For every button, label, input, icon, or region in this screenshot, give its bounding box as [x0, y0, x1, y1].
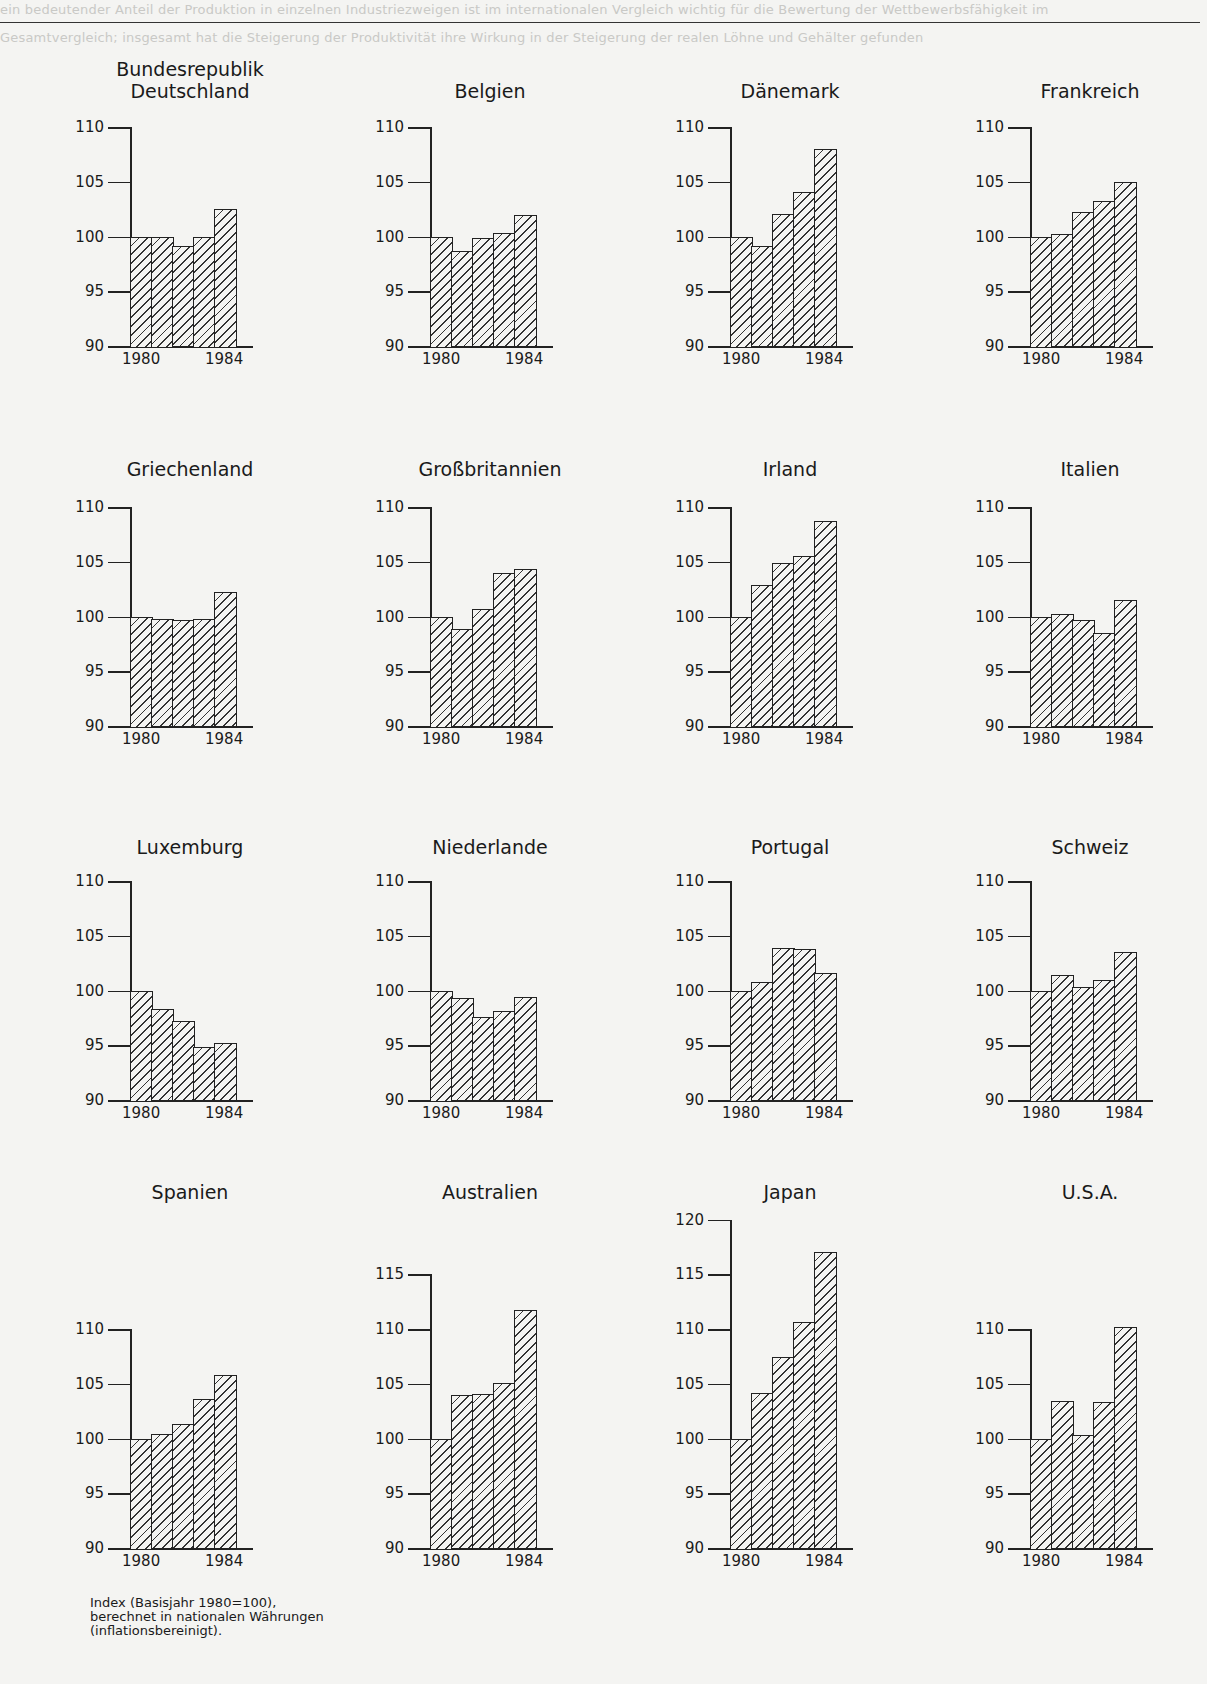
y-tick [108, 1384, 130, 1386]
y-tick [708, 671, 730, 673]
bar-1982 [472, 238, 495, 348]
y-tick [408, 1439, 430, 1441]
bar-1983 [793, 949, 816, 1102]
y-tick [108, 1439, 130, 1441]
bar-1982 [772, 948, 795, 1102]
chart-title: Australien [370, 1181, 610, 1203]
y-tick [108, 1329, 130, 1331]
y-tick-label: 105 [964, 1376, 1004, 1392]
bar-1982 [1072, 1435, 1095, 1549]
y-tick-label: 100 [364, 229, 404, 245]
y-tick [708, 182, 730, 184]
y-tick [108, 562, 130, 564]
x-tick-label: 1980 [1022, 731, 1060, 747]
bar-1982 [472, 1394, 495, 1550]
bar-1981 [751, 982, 774, 1102]
y-tick [708, 1045, 730, 1047]
y-tick-label: 100 [664, 229, 704, 245]
bar-1981 [1051, 234, 1074, 347]
x-tick-label: 1984 [1105, 731, 1143, 747]
y-tick [708, 936, 730, 938]
footnote-line: berechnet in nationalen Währungen [90, 1610, 324, 1624]
bar-1980 [430, 617, 453, 728]
bar-1983 [1093, 980, 1116, 1102]
y-tick [1008, 1548, 1030, 1550]
chart-title: Bundesrepublik Deutschland [70, 58, 310, 102]
y-tick [108, 991, 130, 993]
y-tick-label: 95 [64, 1037, 104, 1053]
y-tick [708, 1384, 730, 1386]
bar-1982 [472, 1017, 495, 1102]
y-tick-label: 90 [64, 718, 104, 734]
y-tick-label: 90 [364, 338, 404, 354]
y-tick-label: 110 [64, 873, 104, 889]
y-tick-label: 95 [664, 1485, 704, 1501]
y-tick-label: 110 [64, 1321, 104, 1337]
y-tick [408, 182, 430, 184]
y-tick [408, 562, 430, 564]
bar-1980 [430, 1439, 453, 1550]
x-tick-label: 1980 [722, 731, 760, 747]
y-tick [108, 291, 130, 293]
y-tick-label: 100 [64, 1431, 104, 1447]
y-tick-label: 90 [964, 1540, 1004, 1556]
chart-title: Japan [670, 1181, 910, 1203]
y-tick [708, 127, 730, 129]
bar-1980 [130, 617, 153, 728]
y-tick [408, 726, 430, 728]
x-tick-label: 1984 [205, 351, 243, 367]
chart-title: Dänemark [670, 80, 910, 102]
x-tick-label: 1984 [1105, 1105, 1143, 1121]
bar-1981 [451, 629, 474, 728]
y-tick [708, 617, 730, 619]
y-tick-label: 90 [964, 718, 1004, 734]
x-tick-label: 1980 [422, 731, 460, 747]
y-tick-label: 110 [64, 119, 104, 135]
y-tick-label: 105 [964, 554, 1004, 570]
bar-1981 [451, 998, 474, 1101]
y-tick [1008, 1493, 1030, 1495]
bar-1984 [814, 1252, 837, 1549]
y-tick [1008, 1329, 1030, 1331]
x-tick-label: 1980 [422, 351, 460, 367]
y-tick [108, 1548, 130, 1550]
y-tick-label: 105 [964, 174, 1004, 190]
y-tick [1008, 1045, 1030, 1047]
y-tick-label: 110 [964, 873, 1004, 889]
y-tick-label: 115 [364, 1266, 404, 1282]
x-tick-label: 1984 [505, 731, 543, 747]
y-tick-label: 90 [364, 1540, 404, 1556]
y-tick [708, 991, 730, 993]
y-tick-label: 115 [664, 1266, 704, 1282]
y-tick-label: 105 [364, 174, 404, 190]
x-tick-label: 1980 [422, 1105, 460, 1121]
y-tick [408, 1384, 430, 1386]
x-tick-label: 1984 [805, 1553, 843, 1569]
x-tick-label: 1980 [122, 731, 160, 747]
chart-title: Schweiz [970, 836, 1207, 858]
y-tick [108, 182, 130, 184]
chart-title: Irland [670, 458, 910, 480]
y-tick-label: 110 [64, 499, 104, 515]
y-tick [1008, 507, 1030, 509]
y-tick-label: 105 [364, 554, 404, 570]
y-tick-label: 110 [364, 119, 404, 135]
chart-title: Spanien [70, 1181, 310, 1203]
y-tick-label: 95 [364, 1037, 404, 1053]
y-tick [1008, 562, 1030, 564]
bar-1983 [193, 619, 216, 728]
y-tick [408, 881, 430, 883]
y-tick-label: 105 [664, 174, 704, 190]
y-tick-label: 110 [364, 873, 404, 889]
y-tick [408, 507, 430, 509]
bar-1981 [151, 1434, 174, 1549]
y-tick [708, 562, 730, 564]
y-tick [408, 991, 430, 993]
y-tick [108, 237, 130, 239]
y-tick [1008, 1100, 1030, 1102]
show-through-text: Gesamtvergleich; insgesamt hat die Steig… [0, 30, 1207, 45]
x-tick-label: 1980 [122, 1105, 160, 1121]
y-tick-label: 105 [664, 1376, 704, 1392]
y-tick-label: 90 [664, 338, 704, 354]
bar-1981 [151, 1009, 174, 1101]
